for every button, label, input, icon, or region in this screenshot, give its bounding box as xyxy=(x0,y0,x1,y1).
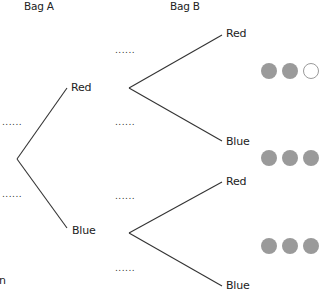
ball-group-2 xyxy=(261,150,319,166)
prob-blank-a-blue[interactable]: ...... xyxy=(2,190,22,199)
grey-ball-icon xyxy=(282,150,298,166)
ball-group-3 xyxy=(261,238,319,254)
ball-group-1 xyxy=(261,63,319,79)
branch-a-red xyxy=(17,88,67,159)
prob-blank-red-blue[interactable]: ...... xyxy=(115,118,135,127)
outcome-red-red: Red xyxy=(226,28,246,40)
prob-blank-red-red[interactable]: ...... xyxy=(115,46,135,55)
branch-red-blue xyxy=(129,88,222,141)
grey-ball-icon xyxy=(261,150,277,166)
grey-ball-icon xyxy=(261,63,277,79)
grey-ball-icon xyxy=(303,150,319,166)
prob-blank-blue-red[interactable]: ...... xyxy=(115,192,135,201)
prob-blank-blue-blue[interactable]: ...... xyxy=(115,264,135,273)
outcome-a-blue: Blue xyxy=(72,225,96,237)
grey-ball-icon xyxy=(282,238,298,254)
branch-red-red xyxy=(129,35,222,88)
outcome-blue-blue: Blue xyxy=(226,280,250,291)
outcome-red-blue: Blue xyxy=(226,136,250,148)
footer-text-fragment: n xyxy=(0,275,6,287)
outcome-a-red: Red xyxy=(71,82,91,94)
outcome-blue-red: Red xyxy=(226,176,246,188)
branch-a-blue xyxy=(17,159,67,228)
branch-blue-blue xyxy=(129,233,222,286)
grey-ball-icon xyxy=(282,63,298,79)
branch-blue-red xyxy=(129,182,222,233)
grey-ball-icon xyxy=(303,238,319,254)
prob-blank-a-red[interactable]: ...... xyxy=(2,118,22,127)
grey-ball-icon xyxy=(261,238,277,254)
white-ball-icon xyxy=(303,63,319,79)
